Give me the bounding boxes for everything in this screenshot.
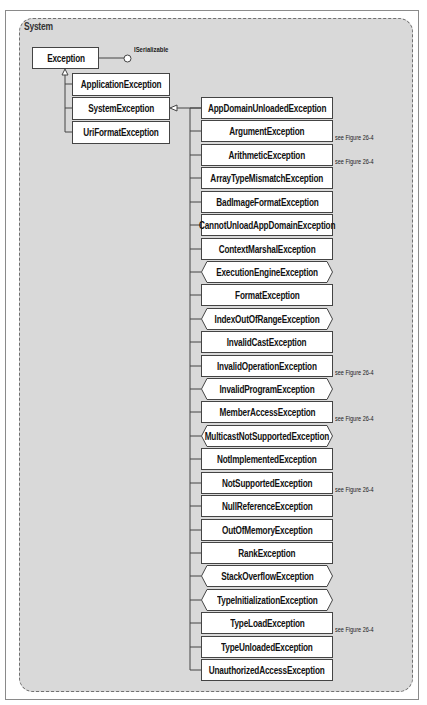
class-label: SystemException — [88, 103, 154, 114]
class-label: RankException — [238, 548, 295, 559]
class-box: MemberAccessException — [201, 401, 333, 423]
class-label: InvalidProgramException — [219, 384, 314, 395]
class-box: ArgumentException — [201, 120, 333, 142]
see-figure-note: see Figure 26-4 — [335, 369, 374, 376]
class-box: ArithmeticException — [201, 144, 333, 166]
class-box: NotSupportedException — [201, 472, 333, 494]
class-label: AppDomainUnloadedException — [208, 103, 326, 114]
class-label: BadImageFormatException — [216, 197, 318, 208]
class-box: CannotUnloadAppDomainException — [201, 214, 333, 236]
interface-label: ISerializable — [134, 46, 168, 53]
class-system-exception: SystemException — [72, 97, 170, 120]
see-figure-note: see Figure 26-4 — [335, 415, 374, 422]
class-label: ArgumentException — [229, 126, 304, 137]
class-label: ContextMarshalException — [219, 244, 316, 255]
class-label: ApplicationException — [81, 79, 162, 90]
class-box: OutOfMemoryException — [201, 519, 333, 541]
class-box: MulticastNotSupportedException — [201, 425, 333, 447]
see-figure-note: see Figure 26-4 — [335, 158, 374, 165]
class-exception: Exception — [32, 47, 99, 69]
class-uri-format-exception: UriFormatException — [72, 121, 170, 144]
class-label: NotSupportedException — [222, 478, 312, 489]
class-box: TypeUnloadedException — [201, 636, 333, 658]
class-label: ExecutionEngineException — [216, 267, 318, 278]
class-label: MulticastNotSupportedException — [205, 431, 329, 442]
class-box: ContextMarshalException — [201, 238, 333, 260]
class-box: InvalidCastException — [201, 331, 333, 353]
see-figure-note: see Figure 26-4 — [335, 134, 374, 141]
class-box: FormatException — [201, 284, 333, 306]
class-label: ArithmeticException — [229, 150, 306, 161]
class-label: ArrayTypeMismatchException — [211, 173, 324, 184]
class-label: TypeUnloadedException — [221, 642, 313, 653]
see-figure-note: see Figure 26-4 — [335, 486, 374, 493]
class-label: OutOfMemoryException — [222, 525, 313, 536]
class-label: TypeLoadException — [230, 618, 305, 629]
class-label: InvalidCastException — [227, 337, 307, 348]
class-label: MemberAccessException — [219, 407, 315, 418]
class-label: TypeInitializationException — [217, 595, 318, 606]
class-label: InvalidOperationException — [217, 361, 317, 372]
class-label: Exception — [47, 53, 85, 64]
class-box: RankException — [201, 542, 333, 564]
class-application-exception: ApplicationException — [72, 73, 170, 96]
class-box: TypeInitializationException — [201, 589, 333, 611]
class-box: StackOverflowException — [201, 565, 333, 587]
class-box: NotImplementedException — [201, 448, 333, 470]
class-box: AppDomainUnloadedException — [201, 97, 333, 119]
class-label: NotImplementedException — [217, 454, 317, 465]
class-label: StackOverflowException — [221, 571, 314, 582]
class-label: FormatException — [235, 290, 300, 301]
class-label: UnauthorizedAccessException — [209, 665, 325, 676]
class-box: TypeLoadException — [201, 612, 333, 634]
class-box: BadImageFormatException — [201, 191, 333, 213]
class-label: NullReferenceException — [222, 501, 313, 512]
class-box: InvalidOperationException — [201, 355, 333, 377]
class-label: UriFormatException — [83, 127, 158, 138]
class-box: InvalidProgramException — [201, 378, 333, 400]
class-label: IndexOutOfRangeException — [215, 314, 320, 325]
class-box: ArrayTypeMismatchException — [201, 167, 333, 189]
see-figure-note: see Figure 26-4 — [335, 626, 374, 633]
class-box: ExecutionEngineException — [201, 261, 333, 283]
class-box: IndexOutOfRangeException — [201, 308, 333, 330]
class-box: UnauthorizedAccessException — [201, 659, 333, 681]
class-box: NullReferenceException — [201, 495, 333, 517]
class-label: CannotUnloadAppDomainException — [199, 220, 335, 231]
